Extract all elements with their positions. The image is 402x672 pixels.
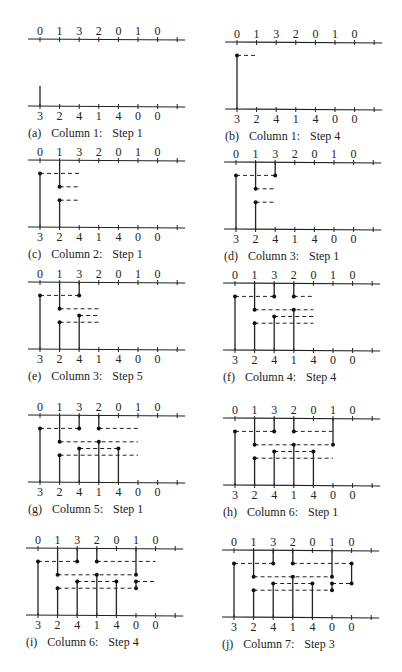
node-dot: [331, 443, 335, 447]
top-label: 0: [312, 27, 318, 41]
bottom-label: 0: [133, 618, 139, 632]
top-axis: [26, 548, 183, 549]
node-dot: [58, 320, 62, 324]
top-label: 0: [310, 403, 316, 417]
top-axis: [28, 39, 185, 40]
top-label: 1: [57, 267, 63, 281]
caption-step: Step 1: [113, 502, 143, 516]
bottom-label: 4: [76, 485, 82, 499]
caption-column: Column 6:: [47, 635, 98, 649]
node-dot: [254, 187, 258, 191]
bottom-axis: [224, 229, 381, 230]
caption-column: Column 5:: [52, 502, 103, 516]
bottom-label: 4: [309, 620, 315, 634]
bottom-label: 0: [155, 352, 161, 366]
top-label: 1: [55, 533, 61, 547]
panel-caption: (j)Column 7:Step 3: [222, 637, 335, 651]
bottom-label: 3: [37, 230, 43, 244]
node-dot: [134, 573, 138, 577]
bottom-label: 4: [270, 620, 276, 634]
bottom-label: 3: [35, 618, 41, 632]
top-label: 1: [251, 535, 257, 549]
bottom-label: 4: [312, 112, 318, 126]
caption-column: Column 2:: [51, 247, 102, 261]
node-dot: [114, 580, 118, 584]
top-label: 0: [37, 24, 43, 38]
bottom-label: 0: [351, 232, 357, 246]
bottom-label: 3: [232, 488, 238, 502]
panel-caption: (g)Column 5:Step 1: [28, 502, 143, 516]
node-dot: [330, 575, 334, 579]
bottom-label: 3: [234, 112, 240, 126]
top-label: 0: [155, 267, 161, 281]
bottom-axis: [28, 227, 185, 228]
top-label: 1: [133, 533, 139, 547]
top-label: 1: [331, 147, 337, 161]
caption-column: Column 7:: [243, 637, 294, 651]
panel-caption: (h)Column 6:Step 1: [223, 505, 338, 519]
top-label: 3: [270, 535, 276, 549]
top-label: 1: [57, 400, 63, 414]
top-label: 0: [309, 535, 315, 549]
top-axis: [222, 550, 379, 551]
bottom-label: 2: [251, 620, 257, 634]
top-label: 0: [311, 147, 317, 161]
bottom-axis: [28, 482, 185, 483]
top-axis: [28, 415, 185, 416]
top-label: 2: [293, 27, 299, 41]
bottom-label: 0: [135, 485, 141, 499]
top-label: 3: [76, 400, 82, 414]
top-label: 2: [290, 535, 296, 549]
bottom-label: 4: [115, 230, 121, 244]
panel-i: 01320103241400(i)Column 6:Step 4: [26, 533, 183, 649]
node-dot: [292, 443, 296, 447]
node-dot: [272, 429, 276, 433]
bottom-label: 0: [349, 620, 355, 634]
bottom-axis: [26, 615, 183, 616]
top-label: 0: [352, 27, 358, 41]
bottom-label: 4: [273, 112, 279, 126]
node-dot: [56, 573, 60, 577]
node-dot: [58, 307, 62, 311]
bottom-label: 4: [310, 488, 316, 502]
node-dot: [95, 573, 99, 577]
top-label: 3: [271, 268, 277, 282]
caption-column: Column 3:: [248, 249, 299, 263]
panel-g: 01320103241400(g)Column 5:Step 1: [28, 400, 185, 516]
bottom-label: 0: [329, 620, 335, 634]
caption-step: Step 1: [308, 505, 338, 519]
bottom-label: 0: [135, 109, 141, 123]
bottom-label: 0: [332, 112, 338, 126]
bottom-label: 1: [96, 352, 102, 366]
bottom-label: 1: [96, 230, 102, 244]
caption-step: Step 1: [309, 249, 339, 263]
node-dot: [330, 588, 334, 592]
node-dot: [350, 561, 354, 565]
top-label: 2: [96, 267, 102, 281]
bottom-label: 4: [115, 485, 121, 499]
top-label: 1: [135, 400, 141, 414]
node-dot: [77, 293, 81, 297]
node-dot: [77, 314, 81, 318]
top-label: 0: [350, 403, 356, 417]
top-label: 0: [115, 400, 121, 414]
node-dot: [291, 561, 295, 565]
bottom-axis: [223, 485, 380, 486]
bottom-label: 0: [135, 230, 141, 244]
top-label: 1: [330, 268, 336, 282]
top-label: 0: [113, 533, 119, 547]
top-label: 2: [94, 533, 100, 547]
caption-step: Step 1: [112, 126, 142, 140]
top-label: 0: [232, 268, 238, 282]
node-dot: [252, 588, 256, 592]
bottom-label: 4: [76, 352, 82, 366]
caption-column: Column 1:: [249, 129, 300, 143]
bottom-label: 4: [74, 618, 80, 632]
top-axis: [223, 283, 380, 284]
node-dot: [38, 171, 42, 175]
node-dot: [272, 450, 276, 454]
panel-h: 01320103241400(h)Column 6:Step 1: [223, 403, 380, 519]
top-label: 0: [234, 27, 240, 41]
bottom-label: 4: [115, 352, 121, 366]
node-dot: [77, 447, 81, 451]
